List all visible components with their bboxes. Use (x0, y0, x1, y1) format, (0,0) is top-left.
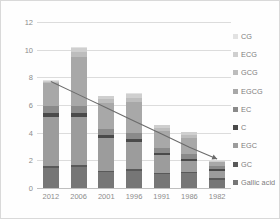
segment-gallic-acid (181, 173, 197, 188)
segment-gallic-acid (154, 174, 170, 188)
gridline-0 (37, 188, 231, 189)
segment-egc (154, 155, 170, 173)
legend-item-egc[interactable]: EGC (233, 137, 279, 155)
segment-egc (181, 161, 197, 173)
legend-label: CG (241, 32, 252, 41)
legend-swatch-icon (233, 180, 238, 185)
y-axis-tick-0: 0 (9, 184, 33, 193)
legend-item-ec[interactable]: EC (233, 100, 279, 118)
segment-gallic-acid (126, 171, 142, 188)
bar-2001[interactable] (98, 96, 114, 188)
segment-gallic-acid (43, 168, 59, 188)
chart-legend: CGECGGCGEGCGECCEGCGCGallic acid (233, 27, 279, 192)
segment-ec (43, 106, 59, 113)
legend-label: EC (241, 105, 251, 114)
segment-egcg (154, 131, 170, 148)
legend-item-gc[interactable]: GC (233, 155, 279, 173)
legend-label: GC (241, 160, 252, 169)
legend-label: EGCG (241, 87, 263, 96)
x-axis-tick-2012: 2012 (43, 192, 60, 201)
legend-item-c[interactable]: C (233, 118, 279, 136)
legend-item-egcg[interactable]: EGCG (233, 82, 279, 100)
y-axis-tick-10: 10 (9, 45, 33, 54)
x-axis-tick-2006: 2006 (70, 192, 87, 201)
bar-2006[interactable] (71, 47, 87, 188)
y-axis-tick-8: 8 (9, 73, 33, 82)
segment-egcg (43, 83, 59, 106)
plot-area: 024681012 2012200620011996199119861982 (37, 22, 231, 188)
legend-item-cg[interactable]: CG (233, 27, 279, 45)
segment-egc (43, 117, 59, 165)
bar-series-group (37, 22, 231, 188)
x-axis-tick-2001: 2001 (98, 192, 115, 201)
x-axis-tick-1982: 1982 (209, 192, 226, 201)
segment-egc (209, 171, 225, 179)
legend-swatch-icon (233, 162, 238, 167)
segment-gallic-acid (98, 172, 114, 188)
y-axis-tick-2: 2 (9, 156, 33, 165)
legend-item-gcg[interactable]: GCG (233, 64, 279, 82)
bar-2012[interactable] (43, 80, 59, 188)
y-axis-tick-6: 6 (9, 101, 33, 110)
legend-swatch-icon (233, 107, 238, 112)
legend-swatch-icon (233, 143, 238, 148)
x-axis-tick-1996: 1996 (126, 192, 143, 201)
legend-swatch-icon (233, 34, 238, 39)
segment-gallic-acid (71, 167, 87, 188)
legend-item-gallic-acid[interactable]: Gallic acid (233, 173, 279, 191)
legend-label: ECG (241, 50, 257, 59)
legend-label: C (241, 123, 246, 132)
chart-container: 024681012 2012200620011996199119861982 C… (0, 0, 280, 219)
bar-1986[interactable] (181, 132, 197, 188)
segment-egcg (181, 138, 197, 155)
bar-1996[interactable] (126, 93, 142, 188)
segment-ec (71, 106, 87, 113)
segment-egc (126, 142, 142, 170)
legend-item-ecg[interactable]: ECG (233, 45, 279, 63)
legend-swatch-icon (233, 89, 238, 94)
bar-1982[interactable] (209, 161, 225, 188)
x-axis-tick-1986: 1986 (181, 192, 198, 201)
segment-egc (98, 138, 114, 171)
legend-label: EGC (241, 141, 257, 150)
y-axis-tick-12: 12 (9, 18, 33, 27)
y-axis-tick-4: 4 (9, 128, 33, 137)
legend-swatch-icon (233, 52, 238, 57)
segment-gallic-acid (209, 180, 225, 188)
segment-egcg (71, 57, 87, 106)
segment-egcg (126, 102, 142, 133)
bar-1991[interactable] (154, 125, 170, 188)
legend-swatch-icon (233, 70, 238, 75)
legend-label: Gallic acid (241, 178, 275, 187)
x-axis-tick-1991: 1991 (153, 192, 170, 201)
legend-swatch-icon (233, 125, 238, 130)
legend-label: GCG (241, 68, 258, 77)
segment-egc (71, 117, 87, 165)
segment-egcg (98, 103, 114, 129)
